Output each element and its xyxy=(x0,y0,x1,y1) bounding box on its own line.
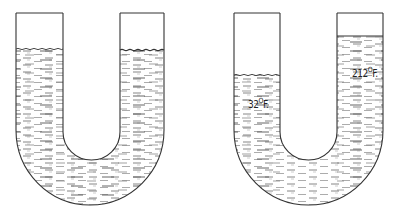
left-tube-liquid-level-left xyxy=(16,48,63,49)
left-u-tube xyxy=(0,13,200,218)
temperature-label-hot: 212OF. xyxy=(352,66,378,79)
right-u-tube xyxy=(220,13,400,218)
hot-temp-unit: F. xyxy=(372,68,377,79)
temperature-label-cold: 32OF. xyxy=(248,97,268,110)
cold-temp-value: 32 xyxy=(248,99,258,110)
u-tube-diagram xyxy=(0,0,401,218)
cold-temp-unit: F. xyxy=(263,99,268,110)
hot-temp-value: 212 xyxy=(352,68,368,79)
